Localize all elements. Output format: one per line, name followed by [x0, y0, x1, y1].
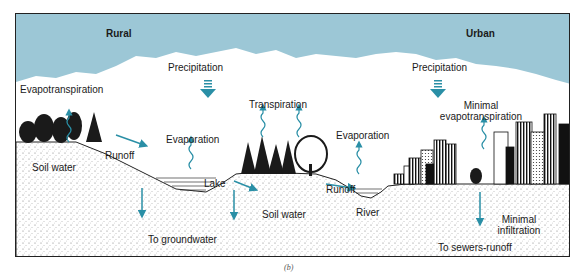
label-minimal-infiltration-line2: infiltration — [484, 225, 554, 236]
label-to-groundwater: To groundwater — [148, 234, 217, 245]
rural-trees-left — [19, 112, 102, 143]
label-minimal-evapotranspiration-line2: evapotranspiration — [426, 111, 536, 122]
label-evaporation-river: Evaporation — [336, 130, 389, 141]
label-runoff-rural: Runoff — [105, 150, 134, 161]
ground — [16, 142, 570, 257]
label-minimal-evapotranspiration-line1: Minimal — [426, 100, 536, 111]
label-rural: Rural — [106, 28, 132, 39]
precipitation-arrow-urban — [430, 80, 446, 98]
label-river: River — [356, 207, 379, 218]
label-urban-precipitation: Precipitation — [412, 62, 467, 73]
rural-trees-center — [241, 136, 327, 176]
label-minimal-infiltration: Minimal infiltration — [484, 214, 554, 236]
urban-buildings — [394, 114, 570, 184]
label-urban: Urban — [466, 28, 495, 39]
label-transpiration: Transpiration — [249, 99, 307, 110]
figure-caption: (b) — [284, 263, 293, 272]
label-soil-water-right: Soil water — [262, 209, 306, 220]
label-minimal-evapotranspiration: Minimal evapotranspiration — [426, 100, 536, 122]
label-evapotranspiration: Evapotranspiration — [20, 84, 103, 95]
label-rural-precipitation: Precipitation — [168, 62, 223, 73]
label-minimal-infiltration-line1: Minimal — [484, 214, 554, 225]
label-soil-water-left: Soil water — [32, 162, 76, 173]
diagram-frame: Rural Urban Precipitation Precipitation … — [15, 13, 570, 257]
label-lake: Lake — [204, 178, 226, 189]
label-runoff-river: Runoff — [326, 184, 355, 195]
label-to-sewers-runoff: To sewers-runoff — [438, 242, 512, 253]
precipitation-arrow-rural — [200, 80, 216, 98]
urban-tree — [470, 168, 482, 184]
sky-band — [16, 14, 570, 84]
label-evaporation-lake: Evaporation — [166, 134, 219, 145]
